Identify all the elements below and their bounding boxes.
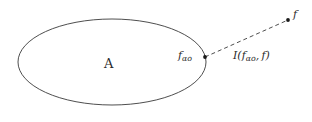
point-f-alpha-dot [203, 55, 207, 59]
point-f-dot [286, 18, 290, 22]
outer-point-label: f [293, 9, 297, 20]
interval-close-paren: ) [265, 49, 269, 62]
interval-comma: , [256, 49, 260, 62]
interval-label: I(fαo, f) [233, 50, 270, 63]
figure-canvas: A fαo I(fαo, f) f [0, 0, 312, 122]
boundary-point-label: fαo [178, 50, 192, 63]
boundary-label-sub-subscript: o [187, 54, 192, 63]
set-label-A: A [104, 57, 113, 70]
